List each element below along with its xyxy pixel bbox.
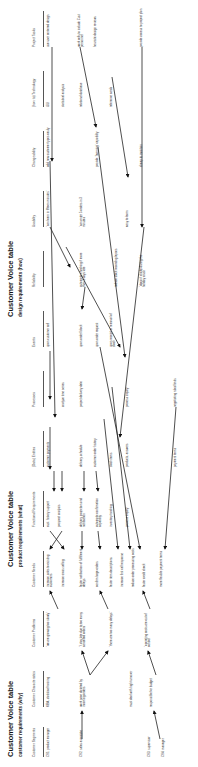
connector-arrows <box>0 0 198 767</box>
customer-voice-diagram: Customer Voice table customer requiremen… <box>0 0 198 767</box>
arrow <box>154 711 160 739</box>
